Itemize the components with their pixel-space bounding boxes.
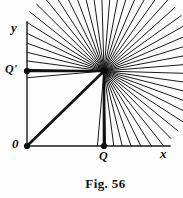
figure-container: y Q' 0 Q x Fig. 56 — [0, 0, 183, 198]
ray-line — [27, 22, 104, 71]
figure-caption: Fig. 56 — [0, 176, 183, 192]
segment-origin-to-center — [27, 71, 104, 146]
ray-line — [104, 71, 151, 146]
point-qprime-dot — [24, 68, 30, 74]
ray-line — [104, 71, 171, 138]
ray-line — [104, 0, 159, 71]
emphasized-segments-group — [27, 71, 104, 146]
point-origin-dot — [24, 143, 30, 149]
ray-line — [37, 4, 104, 71]
q-point-label: Q — [99, 150, 108, 162]
q-prime-point-label: Q' — [5, 63, 17, 75]
ray-pencil-diagram — [0, 0, 183, 198]
ray-line — [104, 71, 183, 122]
x-axis-label: x — [160, 147, 167, 160]
point-center-blob — [101, 68, 108, 75]
y-axis-label: y — [11, 21, 17, 34]
ray-line — [104, 71, 183, 113]
origin-label: 0 — [12, 137, 19, 150]
